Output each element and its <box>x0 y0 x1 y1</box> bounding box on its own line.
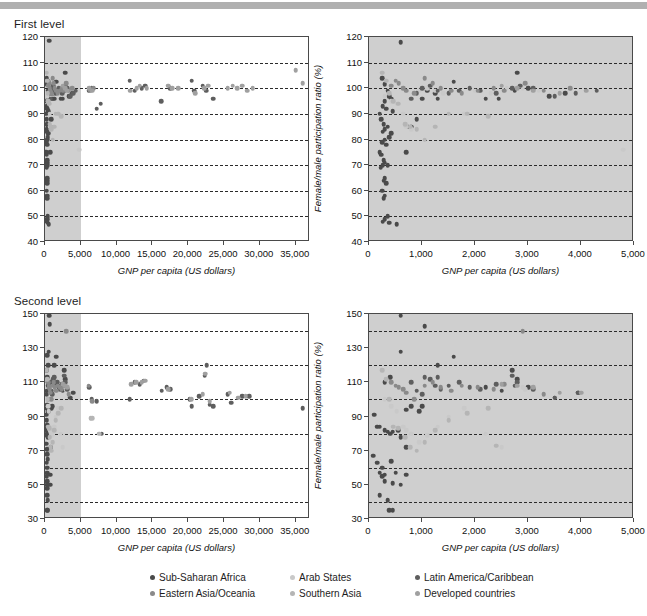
y-axis-label: 90 <box>330 410 362 421</box>
x-axis-label: 1,000 <box>409 525 433 536</box>
data-point <box>403 435 408 440</box>
data-point <box>491 387 496 392</box>
legend-marker-icon <box>290 591 295 596</box>
chart-legend: Sub-Saharan AfricaArab StatesLatin Ameri… <box>150 569 550 601</box>
data-point <box>391 508 396 513</box>
data-point <box>420 392 425 397</box>
legend-item: Sub-Saharan Africa <box>150 572 290 583</box>
data-point <box>462 406 467 411</box>
gridline-y <box>369 502 632 503</box>
data-point <box>417 409 422 414</box>
y-axis-tick <box>364 484 368 485</box>
data-point <box>404 407 409 412</box>
gridline-y <box>369 365 632 366</box>
data-point <box>380 465 385 470</box>
data-point <box>467 385 472 390</box>
data-point <box>389 404 394 409</box>
y-axis-label: 30 <box>330 513 362 524</box>
x-axis-label: 0 <box>365 525 370 536</box>
data-point <box>438 385 443 390</box>
y-axis-label: 150 <box>330 308 362 319</box>
data-point <box>399 483 404 488</box>
data-point <box>446 418 451 423</box>
data-point <box>510 373 515 378</box>
data-point <box>387 397 392 402</box>
data-point <box>422 324 427 329</box>
data-point <box>380 474 385 479</box>
y-axis-title: Female/male participation ratio (%) <box>312 313 323 518</box>
x-axis-label: 4,000 <box>568 525 592 536</box>
data-point <box>385 498 390 503</box>
data-point <box>394 409 399 414</box>
legend-label: Arab States <box>299 572 351 583</box>
y-axis-label: 130 <box>330 342 362 353</box>
data-point <box>499 389 504 394</box>
gridline-y <box>369 399 632 400</box>
data-point <box>449 389 454 394</box>
legend-label: Latin America/Caribbean <box>424 572 534 583</box>
data-point <box>404 390 409 395</box>
data-point <box>422 383 427 388</box>
plot-area-second-level-zoom <box>368 313 633 518</box>
x-axis-tick <box>474 518 475 522</box>
data-point <box>494 382 499 387</box>
scatter-chart-second-level-zoom: 3050709011013015001,0002,0003,0004,0005,… <box>0 0 647 616</box>
data-point <box>433 428 438 433</box>
legend-marker-icon <box>415 575 420 580</box>
x-axis-label: 5,000 <box>621 525 645 536</box>
data-point <box>515 383 520 388</box>
legend-label: Eastern Asia/Oceania <box>159 588 255 599</box>
data-point <box>380 368 385 373</box>
data-point <box>409 431 414 436</box>
data-point <box>425 433 430 438</box>
data-point <box>486 406 491 411</box>
data-point <box>409 404 414 409</box>
data-point <box>420 404 425 409</box>
x-axis-tick <box>527 518 528 522</box>
data-point <box>396 426 401 431</box>
gridline-y <box>369 468 632 469</box>
data-point <box>404 472 409 477</box>
data-point <box>465 411 470 416</box>
legend-label: Southern Asia <box>299 588 361 599</box>
y-axis-label: 70 <box>330 444 362 455</box>
data-point <box>430 380 435 385</box>
data-point <box>383 479 388 484</box>
x-axis-tick <box>368 518 369 522</box>
data-point <box>408 445 413 450</box>
data-point <box>436 363 441 368</box>
data-point <box>371 453 376 458</box>
data-point <box>422 375 427 380</box>
data-point <box>375 460 380 465</box>
data-point <box>520 329 525 334</box>
data-point <box>499 445 504 450</box>
data-point <box>372 412 377 417</box>
data-point <box>399 313 404 318</box>
legend-marker-icon <box>150 575 155 580</box>
x-axis-label: 2,000 <box>462 525 486 536</box>
y-axis-tick <box>364 313 368 314</box>
data-point <box>483 385 488 390</box>
data-point <box>552 395 557 400</box>
legend-item: Southern Asia <box>290 588 415 599</box>
data-point <box>579 390 584 395</box>
legend-label: Developed countries <box>424 588 515 599</box>
x-axis-tick <box>633 518 634 522</box>
data-point <box>436 375 441 380</box>
legend-label: Sub-Saharan Africa <box>159 572 246 583</box>
data-point <box>475 385 480 390</box>
data-point <box>422 440 427 445</box>
data-point <box>384 377 389 382</box>
data-point <box>377 493 382 498</box>
y-axis-tick <box>364 450 368 451</box>
gridline-y <box>369 331 632 332</box>
data-point <box>391 430 396 435</box>
data-point <box>409 380 414 385</box>
legend-marker-icon <box>290 575 295 580</box>
data-point <box>388 375 393 380</box>
y-axis-tick <box>364 416 368 417</box>
data-point <box>523 387 528 392</box>
x-axis-tick <box>580 518 581 522</box>
y-axis-tick <box>364 381 368 382</box>
legend-marker-icon <box>150 591 155 596</box>
